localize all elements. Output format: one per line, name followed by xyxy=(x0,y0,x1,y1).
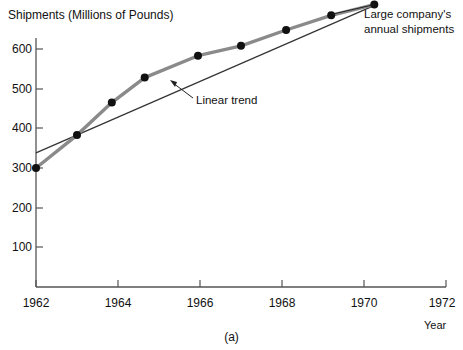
data-point xyxy=(108,99,116,107)
data-point xyxy=(237,42,245,50)
data-point xyxy=(32,164,40,172)
axes xyxy=(36,38,446,287)
annotation-leader-linear-trend xyxy=(170,80,193,98)
chart-figure: Shipments (Millions of Pounds) 600 500 4… xyxy=(0,0,463,350)
series-linear-trend xyxy=(36,5,376,153)
data-point xyxy=(282,26,290,34)
data-point xyxy=(327,11,335,19)
data-point xyxy=(73,131,81,139)
data-point xyxy=(141,74,149,82)
annotation-leader-large-company xyxy=(333,5,374,14)
data-point xyxy=(194,52,202,60)
chart-canvas xyxy=(0,0,463,350)
